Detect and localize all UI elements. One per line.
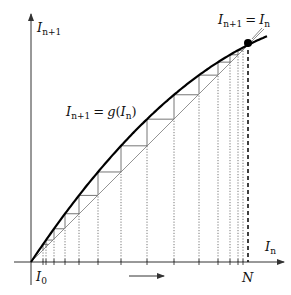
dotted-projection-lines xyxy=(43,50,243,262)
curve-label: In+1=g(In) xyxy=(65,104,137,121)
fixed-point-leader xyxy=(252,28,262,39)
cobweb-diagram: In+1 In In+1=g(In) In+1=In I0 N xyxy=(0,0,291,295)
start-label: I0 xyxy=(35,269,47,286)
x-axis-label: In xyxy=(264,239,276,256)
limit-label: N xyxy=(241,270,254,285)
y-axis-label: In+1 xyxy=(36,20,61,37)
fixed-point-dot xyxy=(244,39,252,47)
identity-diagonal xyxy=(31,29,264,262)
g-curve xyxy=(31,36,267,262)
fixed-point-label: In+1=In xyxy=(217,12,270,29)
